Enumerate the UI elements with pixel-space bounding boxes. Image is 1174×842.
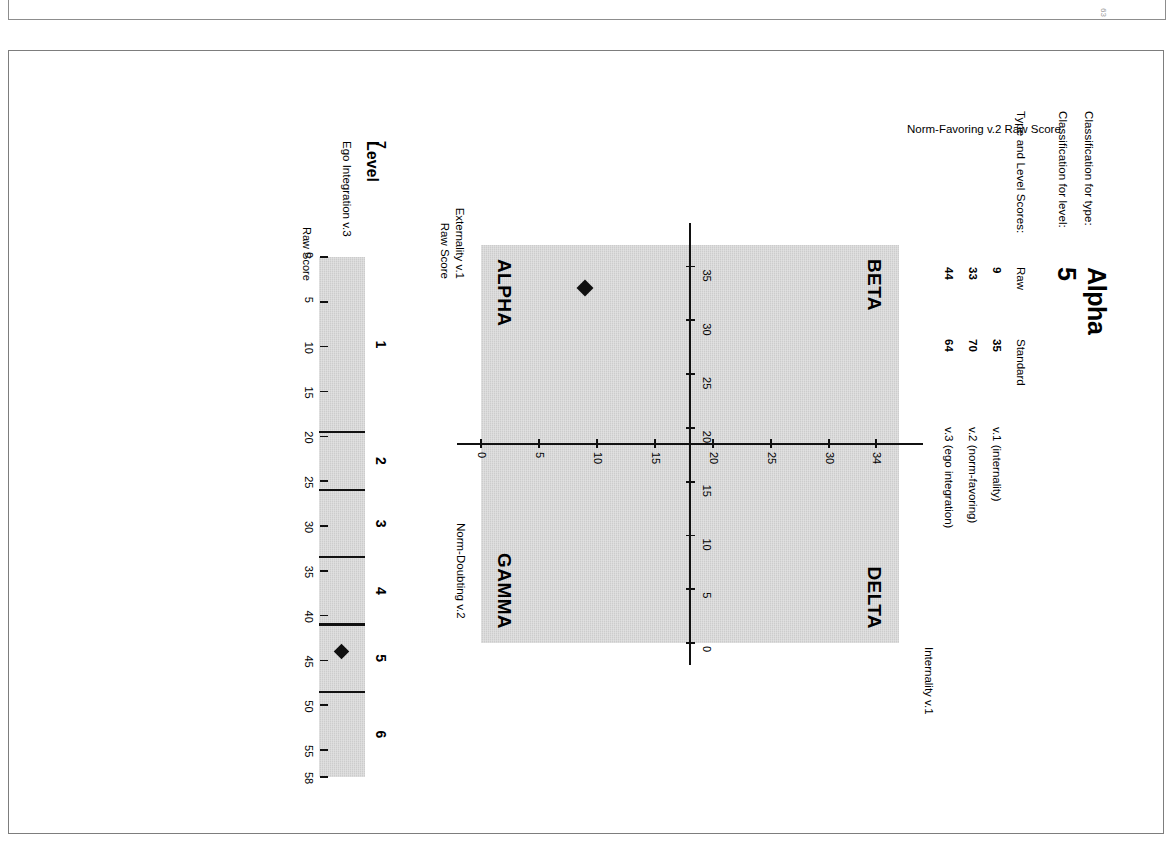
level-tick-label: 30 xyxy=(303,521,315,533)
level-tick xyxy=(320,256,328,258)
x-tick-label: 0 xyxy=(701,646,713,652)
x-tick xyxy=(686,319,695,321)
level-band-divider xyxy=(319,431,365,433)
y-tick-label: 34 xyxy=(871,452,883,464)
level-tick xyxy=(320,615,328,617)
quadrant-label-beta: BETA xyxy=(863,259,885,311)
y-tick xyxy=(828,439,830,448)
x-tick xyxy=(686,481,695,483)
y-tick xyxy=(712,439,714,448)
level-tick xyxy=(320,301,328,303)
classification-level-value: 5 xyxy=(1052,267,1081,281)
x-tick-label: 25 xyxy=(701,377,713,389)
quadrant-label-delta: DELTA xyxy=(863,566,885,629)
y-tick-label: 0 xyxy=(476,452,488,458)
level-band-label: 1 xyxy=(373,340,389,348)
level-tick xyxy=(320,570,328,572)
level-tick-label: 20 xyxy=(303,431,315,443)
score-raw: 9 xyxy=(991,267,1003,273)
ego-integration-level-chart: Level Ego Integration v.3 Raw Score 0510… xyxy=(199,141,409,781)
level-tick-label: 15 xyxy=(303,386,315,398)
level-tick xyxy=(320,391,328,393)
score-variable: v.2 (norm-favoring) xyxy=(967,427,979,523)
classification-type-value: Alpha xyxy=(1082,267,1111,334)
axis-title-externality-line2: Raw Score xyxy=(437,159,452,279)
score-variable: v.1 (internality) xyxy=(991,427,1003,502)
y-tick xyxy=(538,439,540,448)
level-tick xyxy=(320,436,328,438)
x-tick xyxy=(686,266,695,268)
x-tick-label: 15 xyxy=(701,485,713,497)
column-header-raw: Raw xyxy=(1015,267,1027,290)
x-tick xyxy=(686,535,695,537)
y-tick-label: 15 xyxy=(650,452,662,464)
level-tick xyxy=(320,704,328,706)
level-tick-label: 10 xyxy=(303,342,315,354)
level-band-divider xyxy=(319,623,365,625)
quadrant-label-gamma: GAMMA xyxy=(493,553,515,629)
score-variable: v.3 (ego integration) xyxy=(943,427,955,528)
y-tick xyxy=(480,439,482,448)
quadrant-label-alpha: ALPHA xyxy=(493,259,515,326)
page-number: 63 xyxy=(1099,8,1108,17)
x-tick-label: 30 xyxy=(701,323,713,335)
level-subtitle: Ego Integration v.3 xyxy=(341,141,353,237)
previous-page-strip: 63 xyxy=(8,0,1166,20)
level-tick-label: 50 xyxy=(303,700,315,712)
level-tick xyxy=(320,346,328,348)
level-tick-label: 25 xyxy=(303,476,315,488)
report-page: 63 Classification for type: Classificati… xyxy=(0,0,1174,842)
y-tick-label: 20 xyxy=(708,452,720,464)
level-band-label: 6 xyxy=(373,730,389,738)
axis-title-norm-doubting: Norm-Doubting v.2 xyxy=(455,523,467,619)
column-header-standard: Standard xyxy=(1015,339,1027,386)
axis-title-internality: Internality v.1 xyxy=(923,647,935,715)
y-tick-label: 5 xyxy=(534,452,546,458)
level-tick xyxy=(320,660,328,662)
x-tick xyxy=(686,588,695,590)
level-scale-bar xyxy=(319,257,365,777)
level-tick xyxy=(320,525,328,527)
x-tick-label: 5 xyxy=(701,592,713,598)
level-band-divider xyxy=(319,489,365,491)
score-standard: 70 xyxy=(967,339,979,352)
x-tick-label: 35 xyxy=(701,270,713,282)
y-tick-label: 30 xyxy=(824,452,836,464)
level-band-label: 2 xyxy=(373,457,389,465)
level-tick-label: 0 xyxy=(303,252,315,258)
level-band-label: 4 xyxy=(373,587,389,595)
y-tick xyxy=(770,439,772,448)
level-band-divider xyxy=(319,691,365,693)
level-band-label: 3 xyxy=(373,520,389,528)
level-tick xyxy=(320,749,328,751)
score-standard: 64 xyxy=(943,339,955,352)
y-tick-label: 10 xyxy=(592,452,604,464)
x-tick-label: 20 xyxy=(701,431,713,443)
score-raw: 33 xyxy=(967,267,979,280)
x-tick xyxy=(686,427,695,429)
y-axis-line xyxy=(457,443,923,445)
x-tick xyxy=(686,642,695,644)
y-tick-label: 25 xyxy=(766,452,778,464)
level-band-label: 5 xyxy=(373,654,389,662)
axis-title-externality-line1: Externality v.1 xyxy=(452,159,467,279)
axis-title-externality: Externality v.1 Raw Score xyxy=(437,159,467,279)
classification-type-label: Classification for type: xyxy=(1083,111,1095,226)
axis-title-norm-favoring: Norm-Favoring v.2 Raw Score xyxy=(907,123,1061,135)
level-band-label: 7 xyxy=(373,141,389,149)
report-frame: Classification for type: Classification … xyxy=(8,50,1164,834)
level-band-divider xyxy=(319,556,365,558)
level-tick-label: 58 xyxy=(303,772,315,784)
y-tick xyxy=(596,439,598,448)
type-scatter-chart: BETA DELTA ALPHA GAMMA 35302520151050 05… xyxy=(481,245,899,643)
y-tick xyxy=(654,439,656,448)
x-tick-label: 10 xyxy=(701,538,713,550)
rotated-report-stage: Classification for type: Classification … xyxy=(41,71,1131,813)
level-tick-label: 45 xyxy=(303,655,315,667)
level-tick xyxy=(320,480,328,482)
score-raw: 44 xyxy=(943,267,955,280)
level-tick-label: 5 xyxy=(303,297,315,303)
x-tick xyxy=(686,373,695,375)
y-tick xyxy=(875,439,877,448)
level-tick-label: 55 xyxy=(303,745,315,757)
